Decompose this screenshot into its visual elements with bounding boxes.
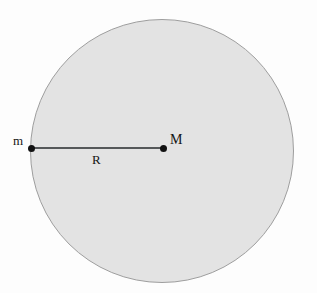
center-mass-label: M [170,133,182,147]
radius-label: R [92,153,101,166]
surface-mass-point-marker [28,145,35,152]
clipped-header-text-region [0,0,317,6]
center-mass-point-marker [160,145,167,152]
surface-mass-label: m [13,134,23,147]
radius-line-segment [31,147,163,149]
physics-figure-canvas: m R M [0,0,317,293]
